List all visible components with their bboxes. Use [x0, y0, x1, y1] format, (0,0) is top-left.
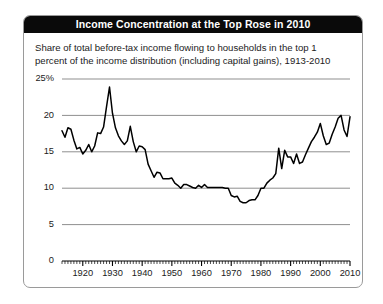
y-axis-tick-label: 20	[28, 110, 54, 120]
line-chart-svg	[24, 73, 362, 287]
gridlines	[62, 79, 350, 261]
x-axis-ticks	[62, 261, 350, 266]
y-axis-tick-label: 15	[28, 146, 54, 156]
y-axis-tick-label: 5	[28, 219, 54, 229]
chart-figure: Income Concentration at the Top Rose in …	[23, 15, 363, 288]
data-series-line	[62, 87, 350, 203]
plot-area: 25%20151050 1920193019401950196019701980…	[24, 73, 362, 287]
chart-subtitle: Share of total before-tax income flowing…	[35, 42, 351, 67]
y-axis-tick-label: 10	[28, 182, 54, 192]
chart-title: Income Concentration at the Top Rose in …	[24, 16, 362, 33]
y-axis-tick-label: 0	[28, 255, 54, 265]
x-axis-tick-label: 2010	[333, 268, 363, 278]
y-axis-tick-label: 25%	[28, 73, 54, 83]
